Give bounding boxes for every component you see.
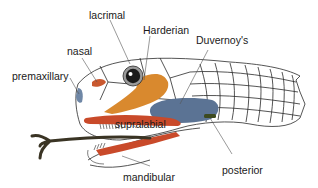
- eye: [123, 66, 143, 86]
- snake-head-diagram: lacrimal Harderian Duvernoy's nasal prem…: [0, 0, 318, 188]
- label-supralabial: supralabial: [115, 119, 166, 130]
- label-premaxillary: premaxillary: [12, 71, 69, 82]
- posterior-gland: [204, 114, 216, 118]
- label-duvernoys: Duvernoy's: [196, 35, 248, 46]
- label-nasal: nasal: [67, 46, 92, 57]
- label-lacrimal: lacrimal: [89, 10, 125, 21]
- label-harderian: Harderian: [143, 25, 189, 36]
- label-mandibular: mandibular: [123, 172, 175, 183]
- label-posterior: posterior: [222, 165, 263, 176]
